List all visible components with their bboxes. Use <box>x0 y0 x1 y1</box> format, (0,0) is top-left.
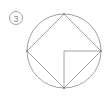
geometry-figure-canvas: 3 <box>0 0 109 96</box>
circled-number-label: 3 <box>10 12 23 25</box>
vertex-dot-bottom <box>63 87 65 89</box>
vertex-dot-top <box>63 13 65 15</box>
vertex-dot-left <box>26 50 28 52</box>
label-number: 3 <box>13 14 18 24</box>
geometry-diagram: 3 <box>0 0 109 96</box>
vertex-dot-right <box>100 50 102 52</box>
